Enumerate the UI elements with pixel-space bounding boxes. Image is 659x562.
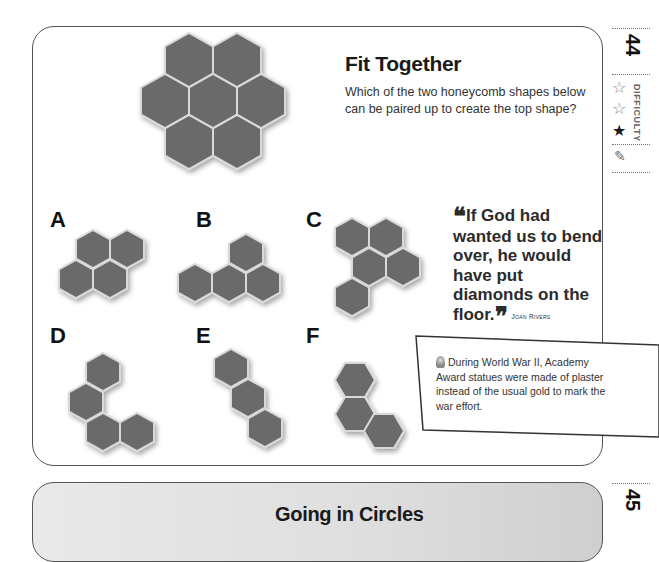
next-puzzle-sidebar: 45 [612, 483, 652, 484]
lightbulb-icon [436, 356, 445, 368]
fact-text: During World War II, Academy Award statu… [436, 356, 605, 412]
fact-text-block: During World War II, Academy Award statu… [436, 355, 616, 413]
next-puzzle-title: Going in Circles [275, 503, 424, 526]
divider [612, 483, 650, 484]
next-puzzle-number: 45 [621, 489, 644, 511]
